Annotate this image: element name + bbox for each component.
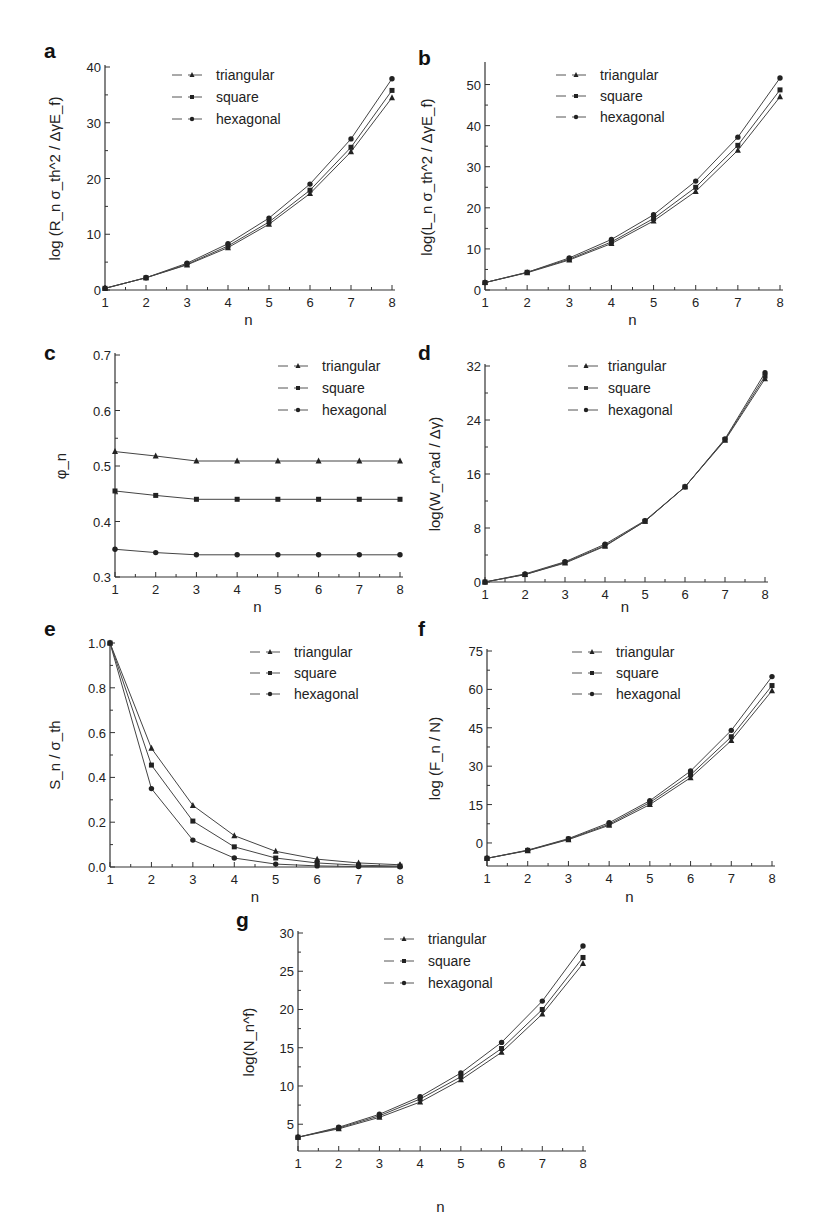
square-marker-icon [574,94,578,98]
square-marker-icon [770,683,775,688]
x-tick-label: 2 [148,872,155,887]
series-hexagonal [102,76,394,291]
square-marker-icon [235,497,240,502]
y-axis-label: φ_n [52,453,69,479]
y-tick-label: 0.4 [88,770,106,785]
legend: triangularsquarehexagonal [572,644,681,702]
legend: triangularsquarehexagonal [556,67,665,125]
circle-marker-icon [316,552,321,557]
panel-letter: d [418,341,431,364]
series-hexagonal [482,75,782,285]
y-tick-label: 40 [467,119,481,134]
circle-marker-icon [357,552,362,557]
circle-marker-icon [268,692,272,696]
y-tick-label: 16 [467,467,481,482]
y-tick-label: 0.5 [93,459,111,474]
square-marker-icon [693,185,698,190]
circle-marker-icon [225,241,230,246]
circle-marker-icon [190,837,195,842]
legend-label: hexagonal [616,686,681,702]
circle-marker-icon [722,436,727,441]
legend-item-triangular: triangular [572,644,675,660]
legend-item-hexagonal: hexagonal [384,975,493,991]
x-tick-label: 5 [274,582,281,597]
circle-marker-icon [688,768,693,773]
square-marker-icon [268,671,272,675]
x-tick-label: 3 [566,295,573,310]
x-tick-label: 5 [457,1156,464,1171]
legend-item-square: square [172,89,259,105]
legend-label: hexagonal [294,686,359,702]
circle-marker-icon [499,1040,504,1045]
triangle-marker-icon [231,832,237,838]
legend-label: triangular [294,644,353,660]
x-tick-label: 5 [265,295,272,310]
panel-d: d1234567808162432nlog(W_n^ad / Δγ)triang… [418,341,769,615]
x-tick-label: 2 [335,1156,342,1171]
x-tick-label: 3 [376,1156,383,1171]
circle-marker-icon [482,280,487,285]
x-tick-label: 1 [106,872,113,887]
y-axis-label: log(W_n^ad / Δγ) [426,417,443,532]
series-hexagonal [295,943,585,1140]
legend-item-hexagonal: hexagonal [568,402,673,418]
circle-marker-icon [735,134,740,139]
circle-marker-icon [190,117,194,121]
x-tick-label: 3 [193,582,200,597]
panel-c: c123456780.30.40.50.60.7nφ_ntriangularsq… [44,341,404,615]
y-axis-label: log (R_n σ_th^2 / ΔγE_f) [46,97,63,261]
circle-marker-icon [482,579,487,584]
circle-marker-icon [525,847,530,852]
legend-label: hexagonal [322,402,387,418]
x-tick-label: 6 [692,295,699,310]
legend-label: square [428,953,471,969]
circle-marker-icon [574,115,578,119]
x-tick-label: 2 [521,587,528,602]
panel-letter: f [418,617,426,640]
series-triangular [107,640,403,868]
circle-marker-icon [275,552,280,557]
circle-marker-icon [609,237,614,242]
y-tick-label: 45 [469,721,483,736]
x-tick-label: 8 [396,872,403,887]
legend-label: hexagonal [216,111,281,127]
legend-item-square: square [278,380,365,396]
series-triangular [484,687,775,861]
series-square [485,683,775,861]
y-tick-label: 20 [280,1002,294,1017]
y-tick-label: 0.6 [93,404,111,419]
square-marker-icon [390,88,395,93]
square-marker-icon [590,671,594,675]
series-square [113,488,403,501]
legend-item-hexagonal: hexagonal [250,686,359,702]
circle-marker-icon [777,75,782,80]
panel-g: g1234567851015202530nlog(N_n^f)triangula… [236,908,587,1215]
x-tick-label: 2 [524,295,531,310]
circle-marker-icon [402,981,406,985]
x-tick-label: 4 [231,872,238,887]
x-tick-label: 5 [650,295,657,310]
circle-marker-icon [762,370,767,375]
square-marker-icon [398,497,403,502]
circle-marker-icon [417,1094,422,1099]
x-axis-label: n [244,311,252,328]
y-tick-label: 32 [467,359,481,374]
legend-label: square [216,89,259,105]
circle-marker-icon [295,1135,300,1140]
x-tick-label: 6 [314,872,321,887]
square-marker-icon [357,497,362,502]
circle-marker-icon [642,518,647,523]
square-marker-icon [308,188,313,193]
square-marker-icon [190,95,194,99]
y-tick-label: 0 [476,836,483,851]
y-tick-label: 30 [280,926,294,941]
legend-label: hexagonal [600,109,665,125]
square-marker-icon [190,819,195,824]
series-triangular [112,448,403,463]
circle-marker-icon [606,820,611,825]
circle-marker-icon [769,674,774,679]
y-tick-label: 50 [467,78,481,93]
x-tick-label: 1 [294,1156,301,1171]
figure-canvas: a12345678010203040nlog (R_n σ_th^2 / ΔγE… [0,0,814,1220]
legend-label: square [322,380,365,396]
